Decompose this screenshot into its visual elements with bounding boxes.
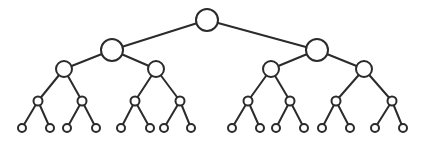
tree-node	[306, 39, 328, 61]
leaf-node	[399, 124, 407, 132]
leaf-node	[228, 124, 236, 132]
tree-node	[34, 97, 43, 106]
tree-nodes	[18, 9, 407, 132]
tree-node	[101, 39, 123, 61]
leaf-node	[160, 124, 168, 132]
leaf-node	[146, 124, 154, 132]
tree-node	[263, 61, 279, 77]
tree-node	[78, 97, 87, 106]
leaf-node	[346, 124, 354, 132]
leaf-node	[272, 124, 280, 132]
leaf-node	[117, 124, 125, 132]
tree-edge	[112, 20, 207, 50]
tree-edges	[22, 20, 403, 128]
leaf-node	[300, 124, 308, 132]
leaf-node	[187, 124, 195, 132]
tree-node	[148, 61, 164, 77]
tree-node	[332, 97, 341, 106]
leaf-node	[92, 124, 100, 132]
leaf-node	[46, 124, 54, 132]
root-node	[196, 9, 218, 31]
tree-node	[356, 61, 372, 77]
tree-node	[244, 97, 253, 106]
leaf-node	[371, 124, 379, 132]
leaf-node	[318, 124, 326, 132]
tree-node	[56, 61, 72, 77]
binary-tree-diagram	[0, 0, 425, 144]
tree-node	[388, 97, 397, 106]
tree-node	[286, 97, 295, 106]
leaf-node	[256, 124, 264, 132]
leaf-node	[18, 124, 26, 132]
tree-node	[131, 97, 140, 106]
tree-node	[176, 97, 185, 106]
leaf-node	[63, 124, 71, 132]
tree-edge	[207, 20, 317, 50]
